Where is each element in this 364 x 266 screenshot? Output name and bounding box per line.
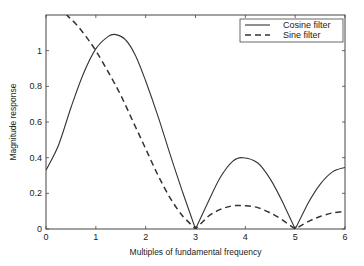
x-axis-ticks: 0123456: [43, 15, 347, 242]
y-tick-label: 0.4: [29, 153, 42, 163]
x-tick-label: 3: [193, 232, 198, 242]
legend: Cosine filter Sine filter: [240, 19, 343, 42]
magnitude-response-chart: 0123456 00.20.40.60.81 Multiples of fund…: [0, 0, 364, 266]
legend-label-cosine: Cosine filter: [283, 20, 331, 30]
x-tick-label: 1: [93, 232, 98, 242]
legend-label-sine: Sine filter: [283, 30, 321, 40]
y-tick-label: 0.6: [29, 117, 42, 127]
y-axis-label: Magnitude response: [8, 83, 18, 160]
x-tick-label: 4: [243, 232, 248, 242]
cosine-filter-line: [46, 34, 345, 229]
plot-area: [46, 15, 345, 229]
x-tick-label: 0: [43, 232, 48, 242]
x-tick-label: 2: [143, 232, 148, 242]
x-tick-label: 6: [342, 232, 347, 242]
y-tick-label: 1: [37, 46, 42, 56]
x-tick-label: 5: [293, 232, 298, 242]
y-tick-label: 0.2: [29, 188, 42, 198]
x-axis-label: Multiples of fundamental frequency: [130, 247, 263, 257]
y-tick-label: 0.8: [29, 81, 42, 91]
y-tick-label: 0: [37, 224, 42, 234]
